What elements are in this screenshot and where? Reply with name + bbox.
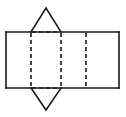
geometric-net-diagram — [0, 0, 126, 117]
base-rectangle-face — [6, 32, 119, 88]
figure-container — [0, 0, 126, 117]
